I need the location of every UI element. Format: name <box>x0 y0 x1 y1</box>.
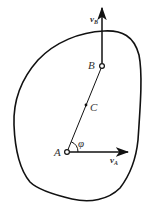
point-a-marker <box>65 150 70 155</box>
label-va: vA <box>110 155 118 166</box>
label-b: B <box>88 59 95 71</box>
label-c: C <box>90 101 98 113</box>
label-phi: φ <box>78 137 84 149</box>
label-va-sub: A <box>113 160 118 166</box>
point-b-marker <box>100 64 105 69</box>
label-vb: vB <box>90 14 98 25</box>
angle-phi-arc <box>71 142 78 152</box>
rigid-body-outline <box>14 31 141 201</box>
diagram-canvas: B C A φ vB vA <box>0 0 151 219</box>
label-vb-sub: B <box>93 19 98 25</box>
point-c-marker <box>85 104 88 107</box>
label-a: A <box>53 146 61 158</box>
